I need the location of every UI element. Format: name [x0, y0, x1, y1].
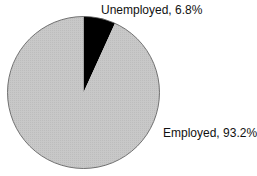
pie-chart: Unemployed, 6.8% Employed, 93.2%: [0, 0, 257, 176]
slice-label-employed: Employed, 93.2%: [163, 126, 257, 140]
slice-label-unemployed: Unemployed, 6.8%: [101, 3, 203, 17]
pie-slice-employed: [7, 17, 159, 169]
pie-slices: [7, 17, 159, 169]
